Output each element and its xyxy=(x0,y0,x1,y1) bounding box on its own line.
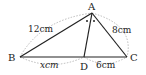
label-ab: 12cm xyxy=(28,24,53,34)
label-bd: xcm xyxy=(40,60,59,70)
label-a: A xyxy=(87,1,96,12)
angle-mark-left xyxy=(86,20,88,22)
triangle-svg: A B C D 12cm 8cm xcm 6cm xyxy=(0,0,146,75)
side-ab xyxy=(20,13,92,57)
angle-mark-right xyxy=(93,20,95,22)
label-c: C xyxy=(130,52,138,63)
label-dc: 6cm xyxy=(96,60,116,70)
label-b: B xyxy=(8,52,15,63)
label-ac: 8cm xyxy=(112,25,132,35)
bisector-ad xyxy=(84,13,92,57)
label-d: D xyxy=(80,61,88,72)
triangle-diagram: A B C D 12cm 8cm xcm 6cm xyxy=(0,0,146,75)
